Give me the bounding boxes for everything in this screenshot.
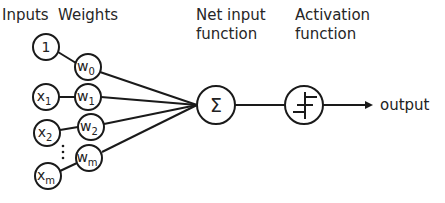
output-label: output [380, 96, 430, 114]
arrow-head-icon [365, 101, 373, 109]
input-nodes [33, 34, 61, 189]
edge-input0-weight0 [58, 52, 76, 63]
ellipsis-icon [62, 145, 65, 160]
edge-weightm-sum [102, 105, 197, 152]
edge-input2-weight2 [60, 127, 78, 130]
edge-inputm-weightm [60, 163, 77, 171]
edge-weight2-sum [104, 105, 197, 124]
perceptron-diagram: 1 x1 x2 xm w0 w1 w2 wm Σ output [0, 0, 445, 203]
sigma-icon: Σ [210, 94, 222, 116]
input-label-1: 1 [42, 39, 51, 55]
